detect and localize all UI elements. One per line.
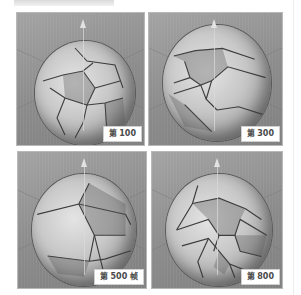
y-axis-line [214, 21, 215, 131]
frame-label: 第 500 帧 [94, 269, 144, 285]
cropped-heading-text [14, 0, 114, 6]
fractured-sphere [163, 25, 271, 141]
render-panel-frame-100: 第 100 [16, 12, 145, 146]
y-axis-line [217, 160, 218, 275]
frame-label: 第 300 [241, 126, 280, 142]
y-axis-arrow-icon [81, 158, 87, 167]
y-axis-arrow-icon [211, 19, 217, 28]
y-axis-arrow-icon [80, 19, 86, 28]
frame-label: 第 100 [103, 126, 142, 142]
fracture-lines [163, 25, 271, 141]
page-edge-divider [293, 0, 294, 295]
render-panel-frame-800: 第 800 [151, 151, 283, 289]
y-axis-arrow-icon [214, 158, 220, 167]
y-axis-line [84, 160, 85, 275]
frame-label: 第 800 [241, 269, 280, 285]
render-panel-frame-500: 第 500 帧 [17, 151, 147, 289]
render-panel-frame-300: 第 300 [148, 12, 283, 146]
y-axis-line [83, 21, 84, 131]
